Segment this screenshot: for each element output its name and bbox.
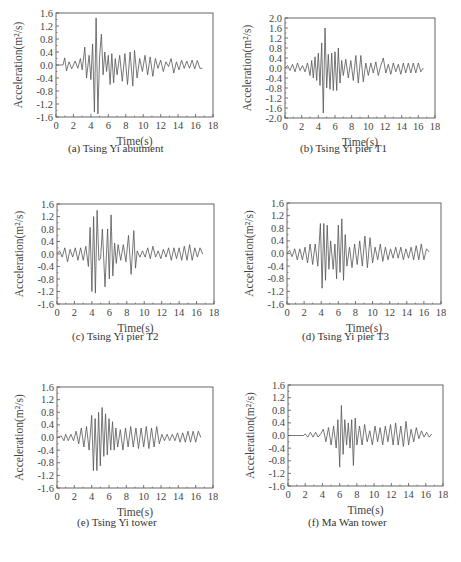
chart-f: 1.61.20.80.40.0-0.4-0.8-1.2-1.6024681012… bbox=[0, 0, 461, 562]
x-tick-label: 4 bbox=[320, 489, 326, 500]
y-tick-label: -1.6 bbox=[268, 481, 285, 492]
x-tick-label: 12 bbox=[386, 489, 397, 500]
y-tick-label: 1.6 bbox=[272, 380, 285, 391]
x-tick-label: 10 bbox=[369, 489, 380, 500]
y-tick-label: 1.2 bbox=[272, 392, 285, 403]
acceleration-series bbox=[288, 406, 432, 468]
y-tick-label: -0.4 bbox=[268, 443, 285, 454]
x-tick-label: 6 bbox=[337, 489, 342, 500]
x-tick-label: 18 bbox=[438, 489, 449, 500]
x-tick-label: 16 bbox=[421, 489, 432, 500]
y-tick-label: -1.2 bbox=[268, 468, 285, 479]
y-tick-label: 0.8 bbox=[272, 405, 285, 416]
chart-caption: (f) Ma Wan tower bbox=[308, 516, 387, 528]
x-tick-label: 8 bbox=[354, 489, 359, 500]
x-tick-label: 2 bbox=[303, 489, 308, 500]
x-tick-label: 0 bbox=[285, 489, 290, 500]
y-tick-label: 0.0 bbox=[272, 430, 285, 441]
y-axis-title: Acceleration(m²/s) bbox=[244, 392, 257, 479]
x-tick-label: 14 bbox=[403, 489, 414, 500]
y-tick-label: -0.8 bbox=[268, 455, 285, 466]
y-tick-label: 0.4 bbox=[272, 417, 286, 428]
